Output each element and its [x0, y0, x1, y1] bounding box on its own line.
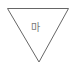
triangle-label: 마 [27, 20, 43, 36]
